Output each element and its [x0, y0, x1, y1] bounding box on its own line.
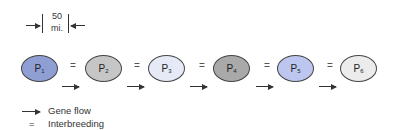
population-p1: P1: [21, 55, 58, 82]
scale-bar-left: [42, 14, 43, 33]
legend-interbreeding-label: Interbreeding: [48, 118, 104, 129]
population-subscript: 6: [360, 68, 363, 74]
gene-flow-arrow-icon: [62, 86, 79, 87]
population-subscript: 2: [105, 68, 108, 74]
legend-gene-flow-arrow-icon: [22, 111, 40, 112]
population-p6: P6: [340, 55, 377, 82]
population-label: P: [34, 63, 41, 74]
gene-flow-arrow-icon: [190, 86, 207, 87]
population-subscript: 3: [168, 68, 171, 74]
interbreeding-symbol: =: [264, 60, 270, 71]
legend-gene-flow-label: Gene flow: [48, 105, 91, 116]
population-label: P: [161, 63, 168, 74]
population-p2: P2: [85, 55, 122, 82]
gene-flow-arrow-icon: [319, 86, 336, 87]
scale-arrow-right-icon: [26, 25, 40, 26]
gene-flow-arrow-icon: [256, 86, 273, 87]
population-p5: P5: [277, 55, 314, 82]
population-label: P: [353, 63, 360, 74]
population-subscript: 5: [297, 68, 300, 74]
scale-arrow-left-icon: [71, 25, 85, 26]
scale-bar-right: [68, 14, 69, 33]
population-label: P: [98, 63, 105, 74]
scale-value: 50: [47, 11, 67, 22]
interbreeding-symbol: =: [134, 60, 140, 71]
population-p3: P3: [148, 55, 185, 82]
interbreeding-symbol: =: [70, 60, 76, 71]
legend-interbreeding-symbol: =: [29, 118, 35, 129]
population-label: P: [290, 63, 297, 74]
population-subscript: 1: [41, 68, 44, 74]
population-p4: P4: [213, 55, 250, 82]
population-subscript: 4: [233, 68, 236, 74]
interbreeding-symbol: =: [199, 60, 205, 71]
interbreeding-symbol: =: [327, 60, 333, 71]
gene-flow-arrow-icon: [127, 86, 144, 87]
population-label: P: [226, 63, 233, 74]
scale-unit: mi.: [47, 23, 67, 34]
